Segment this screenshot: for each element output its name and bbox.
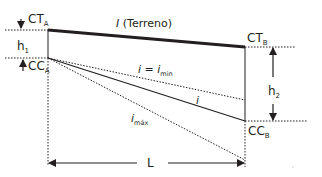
- ct-a-label: CTA: [28, 12, 49, 28]
- cc-a-label: CCA: [28, 59, 50, 75]
- artifact-dot: [292, 166, 293, 167]
- h1-label: h1: [17, 39, 29, 55]
- i-max-label: imáx: [131, 112, 148, 127]
- cc-b-label: CCB: [248, 124, 270, 140]
- i-min-label: i = imin: [138, 63, 173, 78]
- terrain-label: I (Terreno): [116, 17, 172, 30]
- slope-diagram: CTA h1 CCA I (Terreno) CTB h2 CCB i = im…: [0, 0, 322, 177]
- i-label: i: [196, 94, 199, 107]
- ct-b-label: CTB: [247, 31, 268, 47]
- length-label: L: [147, 156, 154, 170]
- terrain-line: [48, 30, 245, 47]
- h2-label: h2: [268, 84, 280, 100]
